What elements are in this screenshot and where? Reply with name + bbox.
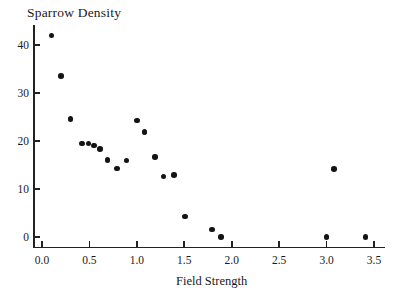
x-tick [326,241,328,247]
x-tick [373,241,375,247]
y-tick [35,236,41,238]
x-tick [41,241,43,247]
data-point [134,118,140,124]
data-point [79,141,85,147]
data-point [105,157,111,163]
data-point [142,129,148,135]
y-tick-label: 30 [5,87,29,99]
x-tick [278,241,280,247]
data-point [331,166,337,172]
x-tick-label: 0.0 [29,254,55,266]
data-point [161,174,167,180]
y-tick-label: 20 [5,135,29,147]
x-axis-line [33,247,385,249]
y-axis-line [33,25,35,248]
x-tick-label: 3.0 [314,254,340,266]
y-tick [35,44,41,46]
data-point [152,154,158,160]
x-tick-label: 1.5 [171,254,197,266]
scatter-figure: Sparrow Density Field Strength 0.00.51.0… [0,0,406,297]
data-point [49,33,55,39]
y-tick-label: 10 [5,183,29,195]
y-tick-label: 0 [5,231,29,243]
x-tick-label: 3.5 [361,254,387,266]
data-point [68,116,74,122]
y-tick [35,188,41,190]
data-point [114,166,120,172]
y-tick [35,140,41,142]
x-axis-label: Field Strength [176,274,247,289]
x-tick-label: 1.0 [124,254,150,266]
data-point [97,146,103,152]
data-point [182,214,188,220]
data-point [124,158,130,164]
x-tick [89,241,91,247]
y-axis-title: Sparrow Density [27,5,121,21]
x-tick [136,241,138,247]
x-tick [231,241,233,247]
data-point [363,234,369,240]
y-tick-label: 40 [5,39,29,51]
x-tick-label: 0.5 [76,254,102,266]
x-tick-label: 2.5 [266,254,292,266]
data-point [209,227,215,233]
x-tick-label: 2.0 [219,254,245,266]
x-tick [183,241,185,247]
data-point [324,234,330,240]
y-tick [35,92,41,94]
data-point [218,234,224,240]
data-point [171,172,177,178]
data-point [58,73,64,79]
